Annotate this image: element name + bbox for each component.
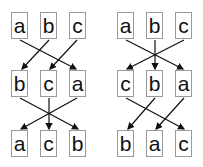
left-r1-box3: c bbox=[69, 12, 86, 39]
left-r3-box1: a bbox=[11, 130, 28, 157]
left-r1-box1: a bbox=[11, 12, 28, 39]
right-r1-box3: c bbox=[175, 12, 192, 39]
right-r1-box2: b bbox=[146, 12, 163, 39]
right-r2-box3: a bbox=[175, 70, 192, 97]
left-r2-box3: a bbox=[69, 70, 86, 97]
right-r3-box1: b bbox=[117, 130, 134, 157]
right-arrows-top bbox=[126, 40, 184, 69]
left-r1-box2: b bbox=[40, 12, 57, 39]
right-r3-box3: c bbox=[175, 130, 192, 157]
right-r2-box1: c bbox=[117, 70, 134, 97]
right-r1-box1: a bbox=[117, 12, 134, 39]
left-r3-box3: b bbox=[69, 130, 86, 157]
right-arrows-bottom bbox=[126, 98, 184, 129]
left-r3-box2: c bbox=[40, 130, 57, 157]
right-r2-box2: b bbox=[146, 70, 163, 97]
left-r2-box2: c bbox=[40, 70, 57, 97]
left-r2-box1: b bbox=[11, 70, 28, 97]
arrows-layer bbox=[0, 0, 203, 167]
right-r3-box2: a bbox=[146, 130, 163, 157]
left-arrows-top bbox=[20, 40, 77, 69]
left-arrows-bottom bbox=[20, 98, 78, 129]
